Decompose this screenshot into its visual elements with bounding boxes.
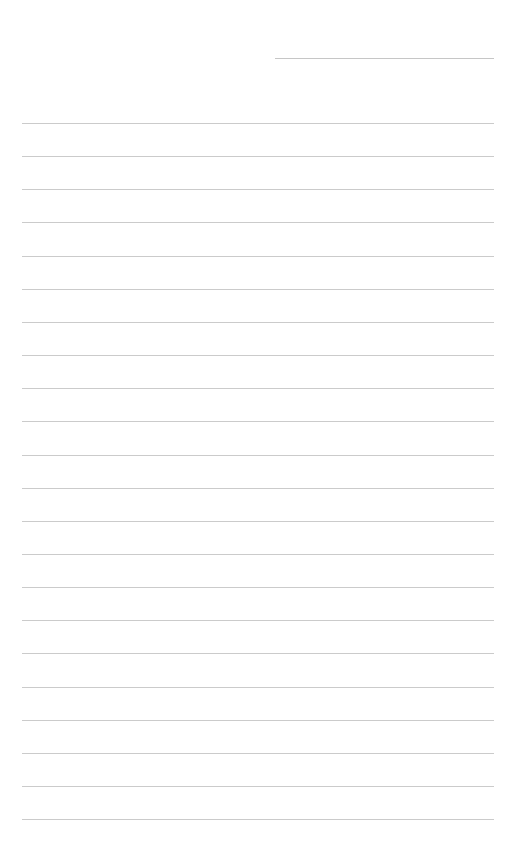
- ruled-line: [22, 421, 494, 422]
- ruled-line: [22, 753, 494, 754]
- ruled-line: [22, 189, 494, 190]
- header-name-line: [275, 58, 494, 59]
- ruled-line: [22, 156, 494, 157]
- ruled-line: [22, 786, 494, 787]
- ruled-line: [22, 720, 494, 721]
- ruled-line: [22, 687, 494, 688]
- ruled-line: [22, 322, 494, 323]
- ruled-line: [22, 620, 494, 621]
- ruled-line: [22, 587, 494, 588]
- ruled-line: [22, 554, 494, 555]
- ruled-line: [22, 388, 494, 389]
- ruled-paper-page: [0, 0, 520, 850]
- ruled-line: [22, 521, 494, 522]
- ruled-line: [22, 455, 494, 456]
- ruled-line: [22, 355, 494, 356]
- ruled-line: [22, 123, 494, 124]
- ruled-line: [22, 819, 494, 820]
- ruled-line: [22, 653, 494, 654]
- ruled-line: [22, 222, 494, 223]
- ruled-line: [22, 488, 494, 489]
- ruled-line: [22, 289, 494, 290]
- ruled-line: [22, 256, 494, 257]
